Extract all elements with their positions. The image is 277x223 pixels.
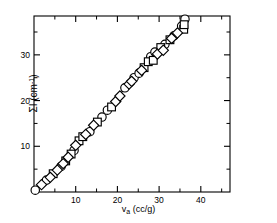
figure: 10203040102030 ΣI (cm-1) va (cc/g) — [0, 0, 277, 223]
y-axis-label-base: ΣI (cm — [28, 84, 39, 112]
scatter-plot: 10203040102030 — [0, 0, 277, 223]
x-axis-label: va (cc/g) — [0, 204, 277, 215]
data-point-square — [180, 21, 188, 29]
data-markers — [31, 15, 189, 194]
y-tick-label: 10 — [21, 141, 31, 151]
y-axis-label-exponent: -1 — [28, 78, 35, 84]
x-axis-label-unit: (cc/g) — [130, 204, 155, 214]
y-axis-label: ΣI (cm-1) — [28, 49, 39, 139]
y-axis-label-tail: ) — [28, 75, 39, 78]
